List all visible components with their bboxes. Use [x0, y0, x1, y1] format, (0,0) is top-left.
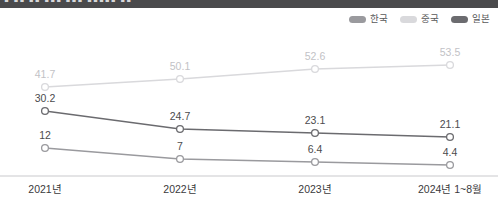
x-axis-label: 2024년 1~8월 [418, 183, 482, 195]
data-point-marker[interactable] [312, 159, 319, 166]
data-point-marker[interactable] [312, 130, 319, 137]
data-point-label: 50.1 [170, 60, 191, 72]
data-point-marker[interactable] [312, 66, 319, 73]
data-point-label: 24.7 [170, 110, 191, 122]
data-point-label: 7 [177, 140, 183, 152]
data-point-marker[interactable] [42, 108, 49, 115]
line-swatch-icon-japan [451, 16, 468, 23]
data-point-marker[interactable] [177, 76, 184, 83]
legend-item-china[interactable]: 중국 [400, 14, 439, 24]
data-point-label: 23.1 [305, 114, 326, 126]
line-swatch-icon-china [400, 16, 417, 23]
legend-item-japan[interactable]: 일본 [451, 14, 490, 24]
series-line-한국 [45, 148, 450, 165]
header-strip-text: ▮ ▮▮ ▮▮ ▮▮▮ ▮▮▮ ▮▮▮▮▮ ▮▮ [4, 0, 132, 3]
data-point-marker[interactable] [42, 145, 49, 152]
data-point-marker[interactable] [447, 62, 454, 69]
data-point-label: 52.6 [305, 50, 326, 62]
series-line-중국 [45, 65, 450, 87]
data-point-label: 30.2 [35, 92, 56, 104]
data-point-marker[interactable] [447, 134, 454, 141]
line-swatch-icon-korea [349, 16, 366, 23]
x-axis-label: 2023년 [298, 183, 331, 195]
data-point-label: 53.5 [440, 46, 461, 58]
x-axis-label: 2022년 [163, 183, 196, 195]
legend-label-japan: 일본 [472, 14, 490, 24]
plot-area: 41.750.152.653.530.224.723.121.11276.44.… [0, 30, 498, 206]
legend-item-korea[interactable]: 한국 [349, 14, 388, 24]
data-point-marker[interactable] [447, 162, 454, 169]
series-line-일본 [45, 111, 450, 137]
data-point-label: 6.4 [308, 143, 323, 155]
chart-legend: 한국 중국 일본 [349, 12, 490, 26]
data-point-label: 12 [39, 129, 51, 141]
plot-svg: 41.750.152.653.530.224.723.121.11276.44.… [0, 30, 498, 206]
legend-label-korea: 한국 [370, 14, 388, 24]
data-point-marker[interactable] [177, 156, 184, 163]
legend-label-china: 중국 [421, 14, 439, 24]
data-point-marker[interactable] [177, 126, 184, 133]
line-chart-widget: ▮ ▮▮ ▮▮ ▮▮▮ ▮▮▮ ▮▮▮▮▮ ▮▮ 한국 중국 일본 41.750… [0, 0, 498, 206]
data-point-label: 4.4 [443, 146, 458, 158]
data-point-label: 21.1 [440, 118, 461, 130]
window-header-strip: ▮ ▮▮ ▮▮ ▮▮▮ ▮▮▮ ▮▮▮▮▮ ▮▮ [0, 0, 498, 8]
data-point-marker[interactable] [42, 84, 49, 91]
data-point-label: 41.7 [35, 68, 56, 80]
x-axis-label: 2021년 [28, 183, 61, 195]
